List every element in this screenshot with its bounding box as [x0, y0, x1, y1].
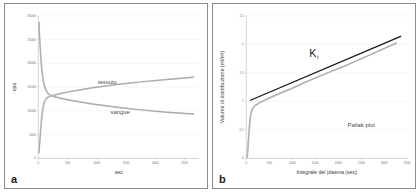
svg-text:30000: 30000	[27, 14, 36, 18]
svg-text:1: 1	[242, 99, 244, 103]
svg-text:1000: 1000	[93, 161, 100, 165]
svg-text:2: 2	[242, 42, 244, 46]
figure-container: 0500010000150002000025000300000500100015…	[0, 0, 420, 192]
svg-text:3000: 3000	[381, 161, 388, 165]
chart-b-series	[246, 42, 397, 158]
svg-text:0.5: 0.5	[240, 128, 245, 132]
panel-a: 0500010000150002000025000300000500100015…	[4, 3, 208, 189]
svg-text:0: 0	[34, 156, 36, 160]
chart-b-gridlines	[246, 16, 407, 158]
chart-a-gridlines	[38, 16, 199, 158]
svg-text:1500: 1500	[312, 161, 319, 165]
svg-text:5000: 5000	[29, 133, 36, 137]
chart-b-svg: 00.511.522.50500100015002000250030003500…	[213, 4, 415, 188]
svg-text:cps: cps	[11, 83, 17, 92]
svg-text:2000: 2000	[152, 161, 159, 165]
svg-text:25000: 25000	[27, 38, 36, 42]
svg-text:sec: sec	[115, 169, 124, 175]
svg-text:10000: 10000	[27, 109, 36, 113]
svg-text:2000: 2000	[335, 161, 342, 165]
chart-b-fit-line	[250, 36, 400, 100]
svg-text:500: 500	[267, 161, 272, 165]
svg-text:Patlak plot: Patlak plot	[348, 122, 376, 128]
svg-text:i: i	[317, 54, 318, 60]
chart-b-ticks: 00.511.522.50500100015002000250030003500	[240, 14, 411, 165]
chart-b-axes	[246, 16, 407, 158]
svg-text:Integrale del plasma (sec): Integrale del plasma (sec)	[296, 169, 357, 175]
svg-text:3500: 3500	[404, 161, 411, 165]
svg-text:1000: 1000	[289, 161, 296, 165]
panel-a-label: a	[11, 173, 17, 185]
svg-text:Volume di distribuzione (ml/ml: Volume di distribuzione (ml/ml)	[219, 51, 225, 124]
chart-a-ticks: 0500010000150002000025000300000500100015…	[27, 14, 188, 165]
svg-text:500: 500	[65, 161, 70, 165]
chart-a-series	[38, 21, 194, 153]
svg-text:sangue: sangue	[111, 109, 131, 115]
panel-b-plot: 00.511.522.50500100015002000250030003500…	[213, 4, 415, 188]
svg-text:2.5: 2.5	[240, 14, 245, 18]
svg-text:0: 0	[242, 156, 244, 160]
svg-text:1.5: 1.5	[240, 71, 245, 75]
svg-text:2500: 2500	[358, 161, 365, 165]
svg-text:0: 0	[37, 161, 39, 165]
panel-b: 00.511.522.50500100015002000250030003500…	[212, 3, 416, 189]
svg-text:tessuto: tessuto	[98, 79, 118, 85]
svg-text:0: 0	[245, 161, 247, 165]
chart-a-annotations: tessutosangueseccps	[11, 79, 131, 175]
panel-b-label: b	[219, 173, 226, 185]
panel-a-plot: 0500010000150002000025000300000500100015…	[5, 4, 207, 188]
svg-text:2500: 2500	[181, 161, 188, 165]
svg-text:1500: 1500	[123, 161, 130, 165]
chart-a-svg: 0500010000150002000025000300000500100015…	[5, 4, 207, 188]
svg-text:15000: 15000	[27, 85, 36, 89]
svg-text:20000: 20000	[27, 61, 36, 65]
